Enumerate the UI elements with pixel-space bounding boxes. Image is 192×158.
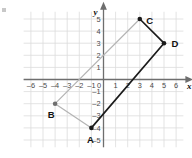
x-tick-label: 4: [150, 81, 154, 90]
point-marker-A[interactable]: [89, 126, 94, 131]
y-tick-label: –2: [92, 99, 100, 108]
x-tick-label: –4: [51, 81, 59, 90]
y-tick-label: 1: [96, 63, 100, 72]
x-tick-label: –5: [39, 81, 47, 90]
x-tick-label: 1: [114, 81, 118, 90]
point-label-B: B: [48, 109, 55, 120]
y-tick-label: –1: [92, 87, 100, 96]
x-tick-label: 3: [138, 81, 142, 90]
y-tick-label: 4: [96, 27, 100, 36]
coordinate-plane-figure: –6–5–4–3–2–1012345654321–1–2–3–4–5xyABCD: [0, 0, 192, 158]
point-label-C: C: [146, 15, 153, 26]
point-marker-D[interactable]: [162, 41, 167, 46]
plot-canvas: –6–5–4–3–2–1012345654321–1–2–3–4–5xyABCD: [0, 0, 192, 158]
x-tick-label: 5: [162, 81, 166, 90]
x-tick-label: 6: [174, 81, 178, 90]
point-marker-C[interactable]: [138, 17, 143, 22]
point-marker-B[interactable]: [53, 101, 58, 106]
y-axis-arrowhead: [100, 2, 107, 10]
point-label-D: D: [172, 38, 179, 49]
x-tick-label: –6: [27, 81, 35, 90]
point-label-A: A: [87, 134, 94, 145]
x-axis-label: x: [186, 81, 192, 91]
y-tick-label: 3: [96, 39, 100, 48]
